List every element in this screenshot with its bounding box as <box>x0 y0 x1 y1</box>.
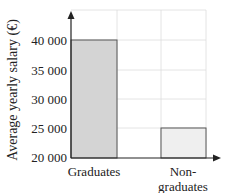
y-tick-30000: 30 000 <box>31 92 67 107</box>
y-axis-arrow-icon <box>68 11 75 19</box>
y-tick-20000: 20 000 <box>31 150 67 165</box>
bar-graduates <box>71 40 117 158</box>
bar-chart: 20 000 25 000 30 000 35 000 40 000 Avera… <box>0 0 237 193</box>
x-label-non-graduates-line2: graduates <box>158 179 208 193</box>
x-label-non-graduates-line1: Non- <box>170 164 197 179</box>
y-tick-35000: 35 000 <box>31 63 67 78</box>
y-tick-labels: 20 000 25 000 30 000 35 000 40 000 <box>31 33 67 165</box>
y-tick-40000: 40 000 <box>31 33 67 48</box>
y-tick-25000: 25 000 <box>31 121 67 136</box>
bar-non-graduates <box>161 128 206 158</box>
x-label-graduates: Graduates <box>68 164 121 179</box>
y-axis-label: Average yearly salary (€) <box>5 19 21 161</box>
x-axis-arrow-icon <box>213 155 221 162</box>
